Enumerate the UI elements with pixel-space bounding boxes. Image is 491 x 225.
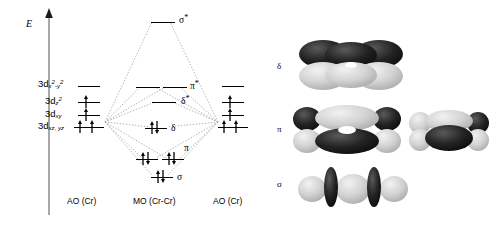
ao-left-electron-dyz — [90, 120, 99, 133]
mo-level-sigma-star — [151, 22, 175, 23]
mo-level-pi-star-b — [163, 87, 187, 88]
ao-label-dx2y2: 3dx2-y2 — [38, 79, 63, 89]
ao-right-level-dx2y2 — [222, 86, 244, 87]
mo-label-sigma: σ — [177, 173, 182, 183]
mo-label-delta-star: δ* — [181, 95, 189, 106]
orbital-image-label-delta: δ — [277, 62, 281, 71]
mo-label-pi: π — [184, 144, 189, 154]
ao-label-dz2: 3dz2 — [45, 96, 62, 106]
mo-label-pi-star: π* — [190, 80, 199, 91]
ao-right-electron-dz2 — [228, 95, 237, 108]
ao-left-electron-dxz — [78, 120, 87, 133]
mo-level-pi-star-a — [136, 87, 160, 88]
orbital-image-label-pi: π — [277, 125, 282, 134]
mo-level-delta-star — [152, 102, 176, 103]
mo-label-sigma-star: σ* — [179, 14, 188, 25]
column-caption-mo: MO (Cr-Cr) — [133, 197, 175, 206]
sigma-orbital-image — [297, 162, 409, 212]
column-caption-ao-left: AO (Cr) — [67, 197, 96, 206]
pi-orbital-image-view1 — [292, 103, 402, 159]
energy-axis-label: E — [26, 19, 32, 29]
mo-electron-pair-pi-b — [167, 152, 176, 165]
column-caption-ao-right: AO (Cr) — [213, 197, 242, 206]
ao-label-dx2y2-text: 3d — [38, 78, 49, 89]
mo-label-delta: δ — [171, 124, 175, 134]
mo-electron-pair-delta — [150, 121, 159, 134]
ao-left-electron-dz2 — [84, 95, 93, 108]
ao-label-dxzyz: 3dxz, yz — [38, 121, 64, 131]
mo-diagram-figure: E 3dx2-y — [0, 0, 491, 225]
mo-electron-pair-sigma — [156, 170, 165, 183]
ao-left-level-dx2y2 — [78, 86, 100, 87]
mo-electron-pair-pi-a — [141, 152, 150, 165]
pi-orbital-image-view2 — [408, 107, 490, 157]
delta-orbital-image — [297, 36, 405, 94]
ao-right-electron-dyz — [234, 120, 243, 133]
ao-right-electron-dxz — [222, 120, 231, 133]
ao-label-dxy: 3dxy — [45, 109, 62, 119]
orbital-image-label-sigma: σ — [277, 180, 282, 189]
